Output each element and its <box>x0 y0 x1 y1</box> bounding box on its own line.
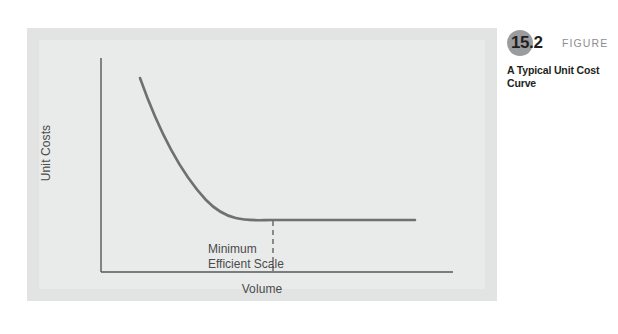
figure-panel: Unit Costs Volume Minimum Efficient Scal… <box>27 28 497 301</box>
chart-plot-area: Unit Costs Volume Minimum Efficient Scal… <box>39 40 485 289</box>
y-axis-title: Unit Costs <box>39 125 53 181</box>
unit-cost-curve-line <box>140 78 415 220</box>
figure-word-label: FIGURE <box>562 37 608 49</box>
figure-number: 15.2 <box>511 33 543 53</box>
minimum-efficient-scale-label: Minimum Efficient Scale <box>208 242 284 271</box>
figure-caption-text: A Typical Unit Cost Curve <box>507 64 615 90</box>
figure-caption-block: 15.2 FIGURE A Typical Unit Cost Curve <box>507 30 615 90</box>
x-axis-title: Volume <box>39 282 485 296</box>
minimum-efficient-scale-label-line2: Efficient Scale <box>208 257 284 272</box>
figure-number-row: 15.2 FIGURE <box>507 30 615 56</box>
minimum-efficient-scale-label-line1: Minimum <box>208 242 284 257</box>
